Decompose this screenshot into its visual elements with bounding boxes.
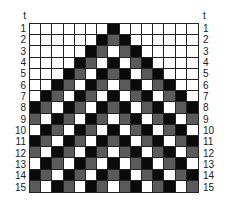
grid-cell-black [120, 69, 131, 80]
grid-cell-gray [108, 170, 119, 181]
grid-cell-gray [97, 114, 108, 125]
grid-cell-white [97, 58, 108, 69]
grid-cell-black [52, 147, 63, 158]
grid-cell-black [131, 80, 142, 91]
grid-cell-white [86, 35, 97, 46]
grid-cell-gray [176, 136, 187, 147]
grid-cell-black [97, 136, 108, 147]
grid-cell-white [30, 80, 41, 91]
grid-cell-black [97, 35, 108, 46]
row-label: 11 [4, 136, 26, 147]
grid-cell-white [30, 35, 41, 46]
row-label: 3 [4, 46, 26, 57]
grid-cell-black [41, 91, 52, 102]
grid-cell-black [52, 114, 63, 125]
grid-cell-white [131, 24, 142, 35]
grid-cell-black [153, 69, 164, 80]
grid-cell-white [176, 69, 187, 80]
grid-cell-gray [120, 181, 131, 192]
grid-cell-black [86, 80, 97, 91]
grid-cell-white [30, 58, 41, 69]
grid-cell-white [64, 91, 75, 102]
grid-cell-black [176, 125, 187, 136]
grid-cell-black [187, 136, 198, 147]
grid-cell-white [64, 24, 75, 35]
grid-cell-black [153, 136, 164, 147]
grid-cell-white [164, 35, 175, 46]
grid-cell-white [176, 147, 187, 158]
grid-cell-white [30, 69, 41, 80]
grid-cell-gray [187, 147, 198, 158]
grid-cell-white [97, 158, 108, 169]
row-label: 8 [203, 102, 225, 113]
grid-cell-white [187, 46, 198, 57]
grid-cell-white [176, 46, 187, 57]
row-label: 14 [4, 170, 26, 181]
row-label: 10 [4, 125, 26, 136]
grid-cell-white [131, 136, 142, 147]
grid-cell-white [187, 24, 198, 35]
grid-cell-white [30, 91, 41, 102]
row-label: 13 [4, 159, 26, 170]
row-label: 4 [4, 57, 26, 68]
grid-cell-gray [164, 125, 175, 136]
grid-cell-white [108, 114, 119, 125]
grid-cell-black [176, 158, 187, 169]
grid-cell-white [30, 125, 41, 136]
grid-cell-white [41, 80, 52, 91]
grid-cell-white [142, 147, 153, 158]
grid-cell-gray [108, 136, 119, 147]
row-label: 5 [203, 68, 225, 79]
grid-cell-black [64, 102, 75, 113]
grid-cell-gray [52, 91, 63, 102]
grid-cell-white [86, 136, 97, 147]
grid-cell-gray [164, 91, 175, 102]
grid-cell-gray [30, 114, 41, 125]
row-label: 10 [203, 125, 225, 136]
grid-cell-gray [30, 147, 41, 158]
grid-cell-gray [120, 114, 131, 125]
grid-cell-white [52, 58, 63, 69]
grid-cell-black [64, 69, 75, 80]
grid-cell-gray [131, 58, 142, 69]
grid-cell-white [64, 125, 75, 136]
grid-cell-white [108, 147, 119, 158]
grid-cell-black [30, 170, 41, 181]
grid-cell-gray [131, 91, 142, 102]
grid-cell-black [120, 102, 131, 113]
grid-cell-white [142, 46, 153, 57]
grid-cell-white [75, 35, 86, 46]
grid-cell-gray [153, 80, 164, 91]
grid-cell-white [187, 125, 198, 136]
grid-cell-black [142, 58, 153, 69]
grid-cell-black [86, 147, 97, 158]
grid-cell-white [41, 114, 52, 125]
grid-cell-gray [64, 181, 75, 192]
row-label: 6 [203, 80, 225, 91]
grid-cell-gray [153, 147, 164, 158]
grid-cell-gray [108, 35, 119, 46]
grid-cell-white [52, 35, 63, 46]
row-label: 5 [4, 68, 26, 79]
grid-cell-white [164, 170, 175, 181]
grid-cell-white [41, 46, 52, 57]
grid-cell-gray [64, 114, 75, 125]
grid-cell-white [108, 80, 119, 91]
grid-cell-gray [86, 58, 97, 69]
grid-cell-white [153, 125, 164, 136]
grid-cell-white [97, 24, 108, 35]
grid-cell-gray [153, 181, 164, 192]
grid-cell-gray [142, 102, 153, 113]
grid-cell-white [41, 35, 52, 46]
grid-cell-gray [97, 46, 108, 57]
row-label: 7 [4, 91, 26, 102]
grid-cell-black [142, 125, 153, 136]
grid-cell-gray [52, 125, 63, 136]
grid-cell-gray [176, 170, 187, 181]
grid-cell-white [52, 69, 63, 80]
grid-cell-white [164, 136, 175, 147]
row-labels-left: t 123456789101112131415 [4, 9, 26, 193]
grid-cell-black [153, 170, 164, 181]
grid-cell-gray [64, 147, 75, 158]
grid-cell-white [153, 24, 164, 35]
